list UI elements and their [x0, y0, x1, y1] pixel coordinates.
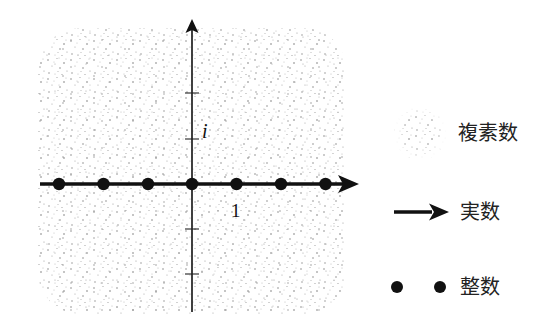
integer-point-3 [319, 178, 331, 190]
integer-point--3 [53, 178, 65, 190]
integer-point--1 [142, 178, 154, 190]
integer-point-2 [275, 178, 287, 190]
legend-real-label: 実数 [460, 202, 500, 222]
integer-point-0 [186, 178, 198, 190]
imaginary-unit-label: i [202, 121, 208, 141]
real-unit-label: 1 [231, 201, 241, 220]
legend-complex-label: 複素数 [458, 123, 518, 143]
legend-real-symbol [394, 204, 449, 221]
legend-integer-symbol [391, 281, 446, 293]
legend-complex-symbol [394, 106, 446, 160]
integer-point-1 [230, 178, 242, 190]
integer-point--2 [97, 178, 109, 190]
legend-integer-label: 整数 [460, 277, 500, 297]
